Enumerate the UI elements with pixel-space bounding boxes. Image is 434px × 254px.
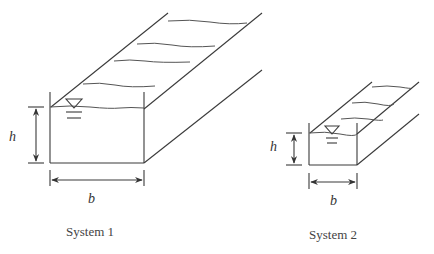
system-2-channel: h b System 2 (270, 82, 419, 242)
height-label-1: h (9, 129, 16, 144)
width-label-1: b (88, 191, 95, 206)
caption-system-1: System 1 (66, 224, 114, 239)
width-label-2: b (330, 193, 337, 208)
caption-system-2: System 2 (309, 227, 357, 242)
height-dimension-1 (28, 107, 44, 163)
width-dimension-1 (50, 170, 144, 186)
water-surface-icon (325, 126, 339, 143)
height-label-2: h (270, 139, 277, 154)
system-1-channel: h b System 1 (9, 13, 262, 239)
water-surface-icon (66, 99, 82, 118)
height-dimension-2 (286, 133, 302, 165)
channel-diagram: h b System 1 (0, 0, 434, 254)
width-dimension-2 (309, 173, 357, 189)
